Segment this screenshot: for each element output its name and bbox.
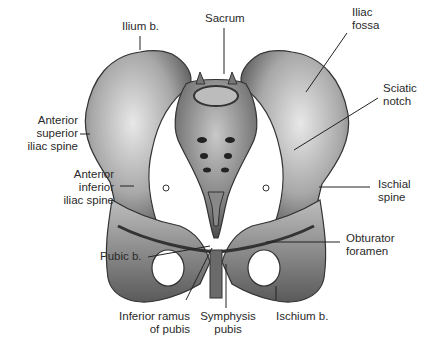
sacral-base: [194, 86, 238, 106]
label-obturator-foramen: Obturator foramen: [346, 232, 395, 258]
label-line: iliac spine: [42, 194, 114, 207]
label-ischial-spine: Ischial spine: [378, 178, 411, 204]
label-line: superior: [8, 127, 78, 140]
label-anterior-inferior-iliac-spine: Anterior inferior iliac spine: [42, 168, 114, 207]
label-line: Symphysis: [198, 310, 258, 323]
label-line: Anterior: [42, 168, 114, 181]
label-line: inferior: [42, 181, 114, 194]
label-sacrum: Sacrum: [205, 12, 245, 25]
label-pubic: Pubic b.: [100, 250, 142, 263]
label-symphysis-pubis: Symphysis pubis: [198, 310, 258, 336]
right-ilium-wing: [241, 51, 349, 232]
label-line: fossa: [352, 19, 380, 32]
label-anterior-superior-iliac-spine: Anterior superior iliac spine: [8, 114, 78, 153]
label-inferior-ramus: Inferior ramus of pubis: [106, 310, 190, 336]
label-line: Obturator: [346, 232, 395, 245]
label-iliac-fossa: Iliac fossa: [352, 6, 380, 32]
label-line: pubis: [198, 323, 258, 336]
label-line: Ischial: [378, 178, 411, 191]
label-line: Iliac: [352, 6, 380, 19]
label-line: notch: [383, 95, 417, 108]
symphysis: [210, 250, 222, 298]
label-line: Sciatic: [383, 82, 417, 95]
right-obturator-foramen: [248, 250, 280, 286]
pelvis-diagram: Ilium b. Sacrum Iliac fossa Sciatic notc…: [0, 0, 432, 340]
label-sciatic-notch: Sciatic notch: [383, 82, 417, 108]
label-line: foramen: [346, 245, 395, 258]
label-line: Inferior ramus: [106, 310, 190, 323]
label-line: Anterior: [8, 114, 78, 127]
label-line: spine: [378, 191, 411, 204]
label-line: iliac spine: [8, 140, 78, 153]
right-ischium-pubis: [222, 200, 326, 302]
label-ilium: Ilium b.: [122, 20, 159, 33]
label-line: of pubis: [106, 323, 190, 336]
label-ischium: Ischium b.: [276, 310, 328, 323]
